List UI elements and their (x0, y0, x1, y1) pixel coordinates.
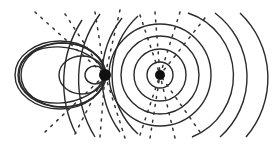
left-source-dot (99, 69, 111, 81)
field-diagram-svg (0, 0, 278, 148)
field-diagram: Field lines and wavefronts around two po… (0, 0, 278, 148)
dashed-field-lines (35, 10, 205, 138)
outer-wavefront-arcs (64, 13, 268, 137)
left-field-loops (15, 41, 106, 109)
right-source-dot (155, 70, 165, 80)
